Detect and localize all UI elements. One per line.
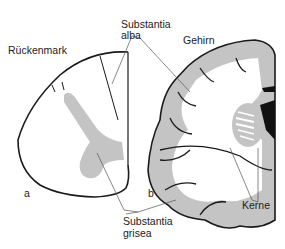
label-panel-a: a — [24, 188, 30, 199]
diagram-figure — [0, 0, 285, 249]
label-brain: Gehirn — [183, 35, 215, 46]
label-spinal-cord: Rückenmark — [8, 45, 67, 56]
spinal-cord-section — [18, 52, 129, 197]
label-nuclei: Kerne — [242, 200, 270, 211]
label-white-matter-line2: alba — [121, 30, 141, 41]
label-gray-matter-line1: Substantia — [123, 216, 173, 227]
label-gray-matter-line2: grisea — [123, 228, 152, 239]
label-panel-b: b — [148, 188, 154, 199]
anatomy-diagram: Rückenmark Substantia alba Gehirn Substa… — [0, 0, 285, 249]
